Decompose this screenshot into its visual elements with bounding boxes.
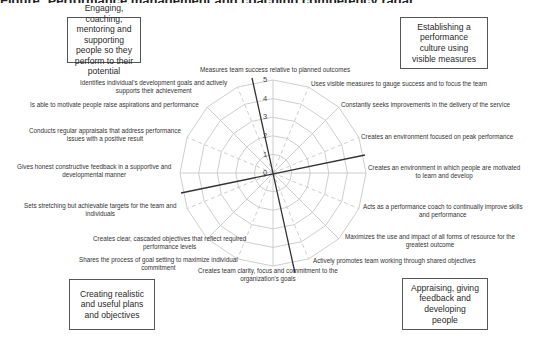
spoke-label-11: Sets stretching but achievable targets f… [24,202,177,217]
quadrant-box-bottom-right: Appraising, giving feedback and developi… [402,278,488,330]
quadrant-text: Appraising, giving feedback and developi… [411,283,479,325]
spoke-label-14: Is able to motivate people raise aspirat… [30,101,199,109]
spoke-label-10: Creates clear, cascaded objectives that … [93,235,246,250]
spoke-label-4: Creates an environment in which people a… [368,164,520,179]
spoke-label-9: Shares the process of goal setting to ma… [79,256,238,271]
radar-spoke-2 [273,107,339,173]
spoke-label-1: Uses visible measures to gauge success a… [311,80,487,88]
spoke-label-5: Acts as a performance coach to continual… [363,203,523,218]
quadrant-text: Establishing a performance culture using… [407,22,481,64]
quadrant-text: Engaging, coaching, mentoring and suppor… [71,3,137,77]
quadrant-box-top-left: Engaging, coaching, mentoring and suppor… [67,17,141,63]
quadrant-box-bottom-left: Creating realistic and useful plans and … [69,279,155,330]
quadrant-divider-vertical [252,78,295,273]
scale-label-4: 4 [263,94,267,103]
radar-spoke-10 [207,173,273,239]
spoke-label-15: Identifies individual's development goal… [80,79,227,94]
scale-label-2: 2 [263,131,267,140]
scale-label-1: 1 [263,150,267,159]
quadrant-text: Creating realistic and useful plans and … [76,289,148,321]
spoke-label-13: Conducts regular appraisals that address… [29,127,181,142]
scale-label-3: 3 [263,112,267,121]
spoke-label-2: Constantly seeks improvements in the del… [341,101,510,109]
quadrant-box-top-right: Establishing a performance culture using… [400,17,488,69]
radar-spoke-6 [273,173,339,239]
spoke-label-12: Gives honest constructive feedback in a … [17,163,171,178]
scale-label-0: 0 [263,168,267,177]
spoke-label-6: Maximizes the use and impact of all form… [345,233,515,248]
spoke-label-3: Creates an environment focused on peak p… [361,133,513,141]
scale-label-5: 5 [263,75,267,84]
spoke-label-0: Measures team success relative to planne… [200,66,350,74]
spoke-label-7: Actively promotes team working through s… [313,257,476,265]
